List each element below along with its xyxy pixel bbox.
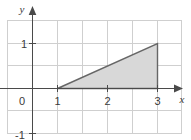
x-tick-label-1: 1 (54, 95, 60, 107)
x-tick-label-3: 3 (154, 95, 160, 107)
y-tick-label-negative-1: -1 (15, 129, 25, 140)
y-tick-label-1: 1 (21, 38, 27, 50)
x-tick-label-2: 2 (104, 95, 110, 107)
y-axis-label: y (19, 3, 25, 15)
plot-canvas: 1 2 3 1 0 -1 y x (0, 0, 191, 140)
x-axis-label: x (179, 93, 185, 105)
origin-label-0: 0 (19, 95, 25, 107)
coordinate-plane-figure: 1 2 3 1 0 -1 y x (0, 0, 191, 140)
